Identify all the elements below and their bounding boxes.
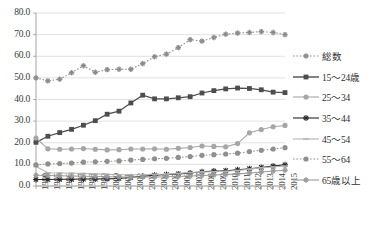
data-point [211,152,216,157]
data-point [34,140,39,145]
data-point [57,147,62,152]
data-point [93,159,98,164]
data-point [304,74,309,79]
chart-legend: 総数15～24歳25～3435～4445～5455～6465歳以上 [292,46,371,190]
data-point [282,168,287,173]
data-point [188,145,193,150]
data-point [93,118,98,123]
data-point [152,156,157,161]
data-point [247,149,252,154]
data-point [188,154,193,159]
data-point [271,146,276,151]
data-point [187,37,192,42]
data-point [69,146,74,151]
data-point [247,30,252,35]
data-point [116,147,121,152]
data-point [81,174,86,179]
data-point [164,174,169,179]
data-point [45,173,50,178]
data-point [45,161,50,166]
data-point [176,174,181,179]
data-point [200,91,205,96]
data-point [282,123,287,128]
data-point [128,67,133,72]
data-point [211,172,216,177]
data-point [303,115,309,121]
data-point [164,96,169,101]
legend-item-5[interactable]: 55～64 [292,149,371,170]
data-point [140,61,145,66]
data-point [69,70,74,75]
data-point [223,151,228,156]
data-point [188,94,193,99]
legend-label: 35～44 [320,111,350,125]
data-point [105,147,110,152]
data-point [247,130,252,135]
data-point [282,162,288,168]
data-point [270,168,275,173]
legend-swatch-icon [292,70,320,84]
data-point [199,153,204,158]
data-point [45,146,50,151]
legend-label: 25～34 [320,90,350,104]
data-point [235,30,240,35]
data-point [176,155,181,160]
data-point [93,147,98,152]
data-point [259,169,264,174]
data-point [116,158,121,163]
legend-swatch-icon [292,111,320,125]
data-point [303,54,308,59]
data-point [93,70,98,75]
data-point [81,123,86,128]
data-point [223,144,228,149]
data-point [69,173,74,178]
data-point [271,124,276,129]
data-point [164,51,169,56]
data-point [81,63,86,68]
data-point [211,88,216,93]
legend-item-6[interactable]: 65歳以上 [292,170,371,191]
data-point [303,157,308,162]
data-point [104,174,109,179]
data-point [283,90,288,95]
data-point [57,76,62,81]
legend-label: 55～64 [320,152,350,166]
data-point [223,31,228,36]
data-point [259,29,264,34]
legend-label: 65歳以上 [320,173,361,187]
data-point [270,163,276,169]
data-point [105,112,110,117]
data-point [140,157,145,162]
data-point [199,143,204,148]
data-point [128,157,133,162]
data-point [152,146,157,151]
legend-item-4[interactable]: 45～54 [292,128,371,149]
legend-swatch-icon [292,49,320,63]
data-point [187,173,192,178]
legend-item-3[interactable]: 35～44 [292,108,371,129]
data-point [235,151,240,156]
data-point [211,35,216,40]
data-point [140,174,145,179]
data-point [176,45,181,50]
legend-swatch-icon [292,90,320,104]
data-point [235,86,240,91]
legend-item-1[interactable]: 15～24歳 [292,67,371,88]
legend-item-2[interactable]: 25～34 [292,87,371,108]
data-point [116,67,121,72]
data-point [57,173,62,178]
data-point [259,87,264,92]
data-point [33,135,38,140]
data-point [235,141,240,146]
data-point [152,96,157,101]
legend-item-0[interactable]: 総数 [292,46,371,67]
data-point [33,75,38,80]
data-point [164,156,169,161]
data-point [105,159,110,164]
data-point [57,130,62,135]
data-point [117,109,122,114]
data-point [152,54,157,59]
data-point [282,145,287,150]
line-chart: 0.010.020.030.040.050.060.070.080.0 1990… [0,0,371,243]
data-point [247,170,252,175]
